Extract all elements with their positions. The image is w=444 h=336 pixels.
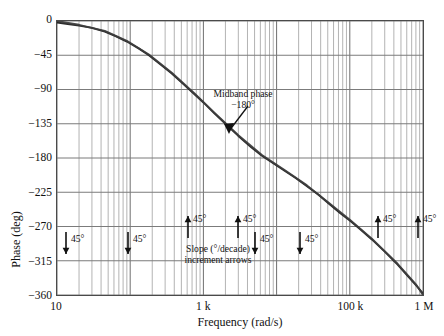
annotation-slope-caption: Slope (°/decade) increment arrows <box>162 244 274 265</box>
slope-arrow-label: 45° <box>193 214 206 224</box>
slope-arrow-label: 45° <box>423 214 436 224</box>
figure-bode-phase-plot: 0−45−90−135−180−225−270−315−360 Phase (d… <box>0 0 444 336</box>
annotation-midband-phase: Midband phase −180° <box>200 88 286 110</box>
x-tick-label: 10 <box>26 301 86 312</box>
x-axis-tick-labels: 101 k100 k1 M <box>0 0 444 336</box>
x-tick-label: 1 M <box>394 301 444 312</box>
x-tick-label: 1 k <box>173 301 233 312</box>
slope-arrow-label: 45° <box>260 234 273 244</box>
annotation-midband-line2: −180° <box>200 99 286 110</box>
x-axis-title: Frequency (rad/s) <box>56 315 424 330</box>
annotation-slope-line1: Slope (°/decade) <box>162 244 274 255</box>
slope-arrow-label: 45° <box>305 234 318 244</box>
slope-arrow-label: 45° <box>383 214 396 224</box>
annotation-slope-line2: increment arrows <box>162 255 274 266</box>
slope-arrow-label: 45° <box>243 214 256 224</box>
x-tick-label: 100 k <box>320 301 380 312</box>
slope-arrow-label: 45° <box>133 234 146 244</box>
annotation-midband-line1: Midband phase <box>200 88 286 99</box>
slope-arrow-label: 45° <box>71 234 84 244</box>
